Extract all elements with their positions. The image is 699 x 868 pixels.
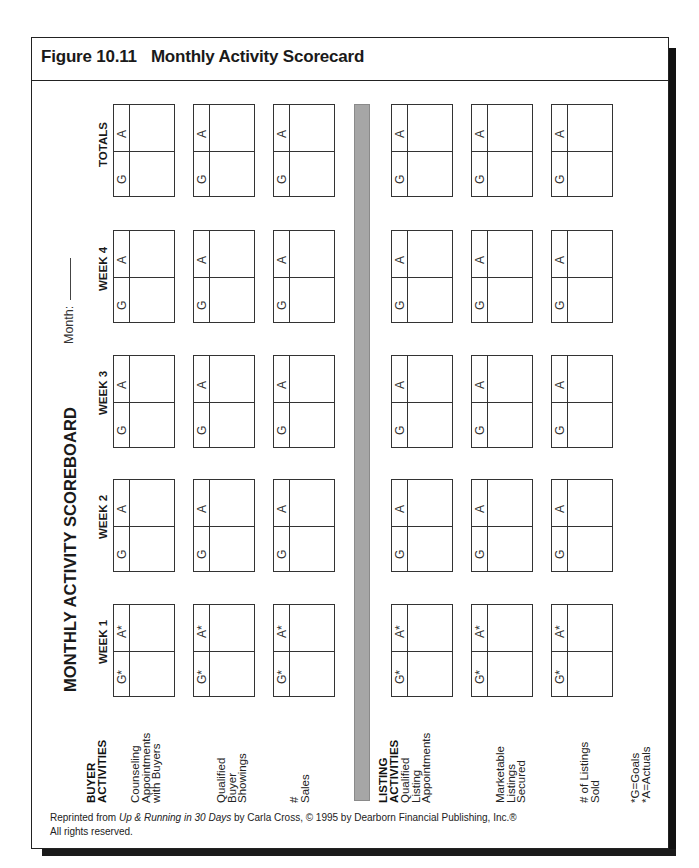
goal-marker-cell: G* xyxy=(114,652,129,698)
goal-entry-field[interactable] xyxy=(408,152,453,198)
actual-entry-field[interactable] xyxy=(130,356,175,402)
section-divider-bar xyxy=(354,104,370,801)
actual-entry-field[interactable] xyxy=(290,480,335,526)
actual-entry-field[interactable] xyxy=(488,105,533,151)
actual-entry-field[interactable] xyxy=(488,356,533,402)
actual-entry-field[interactable] xyxy=(130,480,175,526)
actual-entry-field[interactable] xyxy=(130,105,175,151)
goal-entry-field[interactable] xyxy=(130,527,175,573)
actual-marker-cell: A xyxy=(114,480,129,526)
actual-entry-field[interactable] xyxy=(568,231,613,277)
actual-entry-field[interactable] xyxy=(488,480,533,526)
goal-entry-field[interactable] xyxy=(408,652,453,698)
actual-marker: A xyxy=(195,256,209,264)
actual-marker: A xyxy=(115,130,129,138)
actual-marker: A xyxy=(553,130,567,138)
actual-entry-field[interactable] xyxy=(568,605,613,651)
goal-marker: G xyxy=(393,550,407,559)
actual-entry-field[interactable] xyxy=(408,480,453,526)
actual-entry-field[interactable] xyxy=(290,605,335,651)
score-box-marketable-listings-secured-week-3: AG xyxy=(471,355,533,448)
goal-marker-cell: G xyxy=(274,403,289,449)
score-box-qualified-listing-appointments-week-1: A*G* xyxy=(391,604,453,697)
goal-entry-field[interactable] xyxy=(130,652,175,698)
goal-marker: G xyxy=(195,426,209,435)
legend-goals: *G=Goals xyxy=(630,746,641,803)
actual-marker-cell: A xyxy=(392,356,407,402)
goal-marker: G* xyxy=(553,670,567,684)
actual-marker-cell: A xyxy=(472,356,487,402)
goal-entry-field[interactable] xyxy=(210,403,255,449)
actual-marker: A xyxy=(473,130,487,138)
actual-marker: A* xyxy=(115,625,129,638)
goal-entry-field[interactable] xyxy=(408,278,453,324)
goal-marker-cell: G* xyxy=(392,652,407,698)
score-box-counseling-appointments-week-2: AG xyxy=(113,479,175,572)
goal-entry-field[interactable] xyxy=(290,527,335,573)
actual-marker: A xyxy=(553,381,567,389)
goal-marker: G xyxy=(553,550,567,559)
actual-entry-field[interactable] xyxy=(568,105,613,151)
actual-entry-field[interactable] xyxy=(568,480,613,526)
actual-entry-field[interactable] xyxy=(408,105,453,151)
actual-entry-field[interactable] xyxy=(290,231,335,277)
goal-marker-cell: G xyxy=(472,403,487,449)
figure-header: Figure 10.11Monthly Activity Scorecard xyxy=(32,38,668,81)
goal-entry-field[interactable] xyxy=(408,403,453,449)
actual-entry-field[interactable] xyxy=(210,605,255,651)
goal-entry-field[interactable] xyxy=(568,652,613,698)
actual-entry-field[interactable] xyxy=(210,231,255,277)
activity-label-marketable-listings-secured: Marketable Listings Secured xyxy=(495,746,527,803)
goal-entry-field[interactable] xyxy=(408,527,453,573)
actual-entry-field[interactable] xyxy=(408,231,453,277)
score-box-qualified-buyer-showings-week-2: AG xyxy=(193,479,255,572)
goal-entry-field[interactable] xyxy=(488,152,533,198)
actual-entry-field[interactable] xyxy=(568,356,613,402)
goal-entry-field[interactable] xyxy=(568,278,613,324)
actual-entry-field[interactable] xyxy=(210,105,255,151)
actual-marker-cell: A* xyxy=(274,605,289,651)
actual-entry-field[interactable] xyxy=(488,231,533,277)
actual-entry-field[interactable] xyxy=(210,356,255,402)
goal-entry-field[interactable] xyxy=(210,278,255,324)
actual-marker: A xyxy=(275,130,289,138)
goal-entry-field[interactable] xyxy=(210,152,255,198)
label-line: Showings xyxy=(237,753,248,803)
column-heading-week-2: WEEK 2 xyxy=(97,495,109,539)
actual-entry-field[interactable] xyxy=(408,356,453,402)
goal-entry-field[interactable] xyxy=(568,527,613,573)
goal-entry-field[interactable] xyxy=(130,403,175,449)
goal-entry-field[interactable] xyxy=(210,652,255,698)
actual-entry-field[interactable] xyxy=(210,480,255,526)
heading-line: ACTIVITIES xyxy=(389,740,400,803)
actual-entry-field[interactable] xyxy=(290,356,335,402)
goal-entry-field[interactable] xyxy=(290,403,335,449)
actual-entry-field[interactable] xyxy=(130,605,175,651)
goal-entry-field[interactable] xyxy=(488,403,533,449)
goal-entry-field[interactable] xyxy=(130,152,175,198)
actual-entry-field[interactable] xyxy=(130,231,175,277)
goal-entry-field[interactable] xyxy=(290,652,335,698)
goal-entry-field[interactable] xyxy=(488,652,533,698)
month-input-line[interactable] xyxy=(70,258,71,300)
goal-marker: G* xyxy=(115,670,129,684)
actual-marker-cell: A* xyxy=(392,605,407,651)
goal-entry-field[interactable] xyxy=(130,278,175,324)
actual-entry-field[interactable] xyxy=(408,605,453,651)
goal-entry-field[interactable] xyxy=(488,527,533,573)
goal-entry-field[interactable] xyxy=(290,278,335,324)
goal-entry-field[interactable] xyxy=(568,152,613,198)
goal-marker: G xyxy=(473,550,487,559)
goal-entry-field[interactable] xyxy=(568,403,613,449)
actual-marker: A xyxy=(275,505,289,513)
goal-marker: G xyxy=(195,550,209,559)
goal-marker-cell: G xyxy=(392,152,407,198)
actual-entry-field[interactable] xyxy=(290,105,335,151)
goal-entry-field[interactable] xyxy=(488,278,533,324)
actual-entry-field[interactable] xyxy=(488,605,533,651)
goal-entry-field[interactable] xyxy=(210,527,255,573)
goal-entry-field[interactable] xyxy=(290,152,335,198)
goal-marker-cell: G xyxy=(392,403,407,449)
actual-marker: A xyxy=(275,256,289,264)
actual-marker: A xyxy=(195,381,209,389)
